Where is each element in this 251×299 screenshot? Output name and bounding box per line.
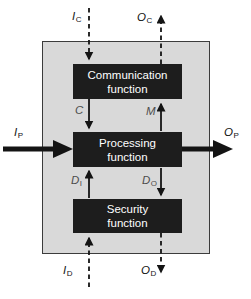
processing-function-label-line1: Processing xyxy=(99,136,156,150)
label-output-p: OP xyxy=(224,126,239,140)
label-d-in-flow: DI xyxy=(71,174,82,188)
label-output-c-subscript: C xyxy=(146,16,152,25)
label-m-flow-symbol: M xyxy=(146,105,156,117)
label-input-d: ID xyxy=(63,264,72,278)
label-input-d-symbol: I xyxy=(63,264,66,276)
label-c-flow-symbol: C xyxy=(75,104,83,116)
label-output-c: OC xyxy=(137,11,152,25)
communication-function-label-line2: function xyxy=(107,82,147,96)
communication-function-box: Communication function xyxy=(73,64,182,99)
label-m-flow: M xyxy=(146,105,156,117)
label-output-p-subscript: P xyxy=(233,131,238,140)
label-output-c-symbol: O xyxy=(137,11,146,23)
label-d-out-flow-symbol: D xyxy=(142,174,150,186)
security-function-label-line1: Security xyxy=(107,202,149,216)
label-d-in-flow-subscript: I xyxy=(80,179,82,188)
label-d-in-flow-symbol: D xyxy=(71,174,79,186)
label-output-p-symbol: O xyxy=(224,126,233,138)
label-input-p-subscript: P xyxy=(18,131,23,140)
label-input-p: IP xyxy=(14,126,23,140)
label-input-p-symbol: I xyxy=(14,126,17,138)
communication-function-label-line1: Communication xyxy=(88,68,168,82)
security-function-label-line2: function xyxy=(107,216,147,230)
function-block-diagram: Communication function Processing functi… xyxy=(0,0,251,299)
label-c-flow: C xyxy=(75,104,83,116)
label-d-out-flow-subscript: O xyxy=(151,179,157,188)
security-function-box: Security function xyxy=(73,199,182,233)
label-output-d-subscript: D xyxy=(150,269,156,278)
label-input-c-subscript: C xyxy=(76,15,82,24)
label-d-out-flow: DO xyxy=(142,174,157,188)
label-output-d-symbol: O xyxy=(141,264,150,276)
label-output-d: OD xyxy=(141,264,156,278)
label-input-c: IC xyxy=(72,10,81,24)
label-input-d-subscript: D xyxy=(67,269,73,278)
label-input-c-symbol: I xyxy=(72,10,75,22)
processing-function-label-line2: function xyxy=(107,150,147,164)
processing-function-box: Processing function xyxy=(73,132,182,167)
